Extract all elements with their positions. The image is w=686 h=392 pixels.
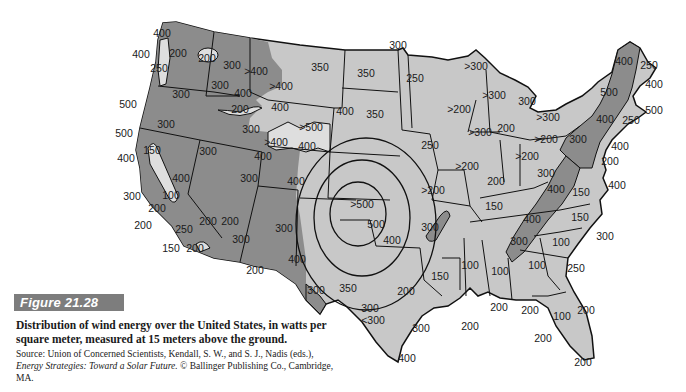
label-ne-e: 250 [421, 139, 439, 151]
label-fl: 100 [553, 310, 571, 322]
label-id-snake: 200 [231, 103, 249, 115]
label-la-coast: 200 [461, 320, 479, 332]
label-tx-c: 300 [361, 302, 379, 314]
label-nc: 150 [571, 211, 589, 223]
label-nc-coast: 300 [596, 230, 614, 242]
label-ny: 400 [596, 113, 614, 125]
source-prefix: Source: Union of Concerned Scientists, K… [16, 349, 314, 359]
label-tn: 150 [485, 200, 503, 212]
label-tx-s: 400 [398, 352, 416, 364]
label-ga-coast: 250 [567, 262, 585, 274]
label-wy-w: 400 [271, 101, 289, 113]
label-nm: 300 [275, 222, 293, 234]
label-id-c: 300 [211, 79, 229, 91]
label-ca-coast-c: 300 [123, 190, 141, 202]
label-az-s: 200 [246, 264, 264, 276]
label-wa-coast-n: 400 [153, 27, 171, 39]
label-fl-w: 200 [534, 332, 552, 344]
label-sd-w: 400 [336, 105, 354, 117]
label-ca-coast-s: 200 [134, 219, 152, 231]
label-ma-coast: 500 [645, 104, 663, 116]
label-id-n: 300 [223, 59, 241, 71]
figure-source: Source: Union of Concerned Scientists, K… [16, 348, 336, 384]
label-wa-coast: 400 [132, 48, 150, 60]
label-va-coast: 400 [608, 179, 626, 191]
label-ca-coast-n: 500 [115, 127, 133, 139]
label-mi-n: >300 [482, 89, 506, 101]
label-wa-puget: 200 [169, 47, 187, 59]
label-ca-coast: 400 [117, 152, 135, 164]
label-sd: 350 [366, 108, 384, 120]
label-ma: 250 [622, 114, 640, 126]
label-ms: 100 [461, 259, 479, 271]
label-mn-nw: 300 [389, 39, 407, 51]
label-tx-w: 300 [307, 284, 325, 296]
label-nm-s: 400 [288, 253, 306, 265]
label-tx-c2: <300 [361, 314, 385, 326]
label-me-coast: 400 [645, 78, 663, 90]
label-fl-s: 200 [574, 356, 592, 368]
label-fl-pan2: 200 [521, 304, 539, 316]
label-fl-pan: 200 [490, 301, 508, 313]
label-ca-sc: 200 [148, 202, 166, 214]
label-ca-sierra: 400 [172, 172, 190, 184]
label-co: 400 [287, 175, 305, 187]
label-or-coast: 500 [119, 98, 137, 110]
label-wv: 300 [537, 167, 555, 179]
label-wy-se: 400 [298, 140, 316, 152]
label-ca-n: 300 [157, 118, 175, 130]
label-mi-e: 300 [518, 95, 536, 107]
label-tx-e: 200 [397, 285, 415, 297]
label-ca-s: 250 [175, 223, 193, 235]
label-pa: 300 [569, 133, 587, 145]
label-mt-c: >400 [269, 80, 293, 92]
label-wi: >200 [447, 103, 471, 115]
label-ga: 100 [528, 259, 546, 271]
figure-label: Figure 21.28 [20, 294, 98, 311]
label-az: 300 [232, 233, 250, 245]
label-nv-s: 200 [199, 215, 217, 227]
label-il: >200 [455, 160, 479, 172]
label-ar: 300 [421, 221, 439, 233]
label-wv-app: 400 [547, 183, 565, 195]
label-ca-coast-sw: 150 [162, 242, 180, 254]
label-me: 250 [640, 59, 658, 71]
figure-caption: Distribution of wind energy over the Uni… [16, 318, 336, 346]
label-ca-valley: 100 [162, 189, 180, 201]
label-pa-w: >300 [536, 111, 560, 123]
label-tx-nw: 350 [339, 282, 357, 294]
label-mo: >200 [421, 184, 445, 196]
label-wy-c: >500 [299, 121, 323, 133]
label-ca-se: 200 [186, 242, 204, 254]
source-title: Energy Strategies: Toward a Solar Future… [16, 361, 178, 371]
label-in: >200 [515, 150, 539, 162]
label-ga-app: 300 [510, 235, 528, 247]
label-wa-east: 200 [198, 52, 216, 64]
label-vt-nh: 500 [600, 86, 618, 98]
label-ok: 500 [367, 218, 385, 230]
label-mt-w: >400 [244, 65, 268, 77]
label-tx-coast: 300 [412, 322, 430, 334]
label-la-n: 150 [431, 270, 449, 282]
label-ks: >500 [350, 198, 374, 210]
label-mi-sw: >300 [468, 126, 492, 138]
label-mi-s: 200 [497, 122, 515, 134]
label-nj-coast: 400 [611, 140, 629, 152]
label-id-s: 400 [234, 87, 252, 99]
label-or: 300 [172, 88, 190, 100]
label-mi-upper: >300 [464, 60, 488, 72]
label-ut-se: 300 [240, 172, 258, 184]
label-ky: 200 [487, 175, 505, 187]
label-wy-s: >400 [264, 136, 288, 148]
label-mt-e: 350 [311, 61, 329, 73]
label-va: 150 [572, 186, 590, 198]
label-ok-s: 400 [383, 234, 401, 246]
label-nv: 300 [199, 145, 217, 157]
label-mn: 250 [406, 72, 424, 84]
label-az-w: 200 [221, 215, 239, 227]
label-ca-c: 150 [143, 144, 161, 156]
label-fl-e: 200 [577, 304, 595, 316]
label-sc: 100 [552, 236, 570, 248]
label-nd: 350 [357, 67, 375, 79]
label-oh-n: >200 [534, 133, 558, 145]
